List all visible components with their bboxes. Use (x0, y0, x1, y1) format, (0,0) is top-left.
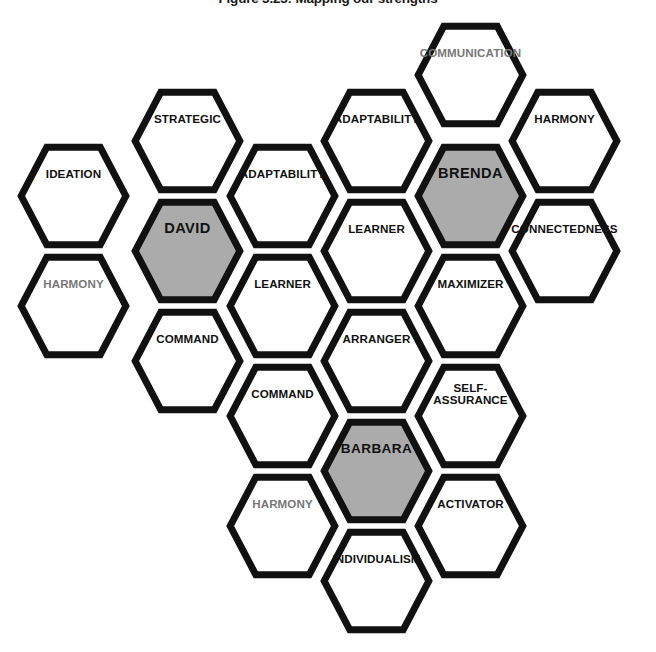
hex-cell-ideation[interactable]: IDEATION (17, 143, 130, 249)
hex-outline (21, 147, 126, 245)
hex-outline (418, 367, 523, 465)
hex-outline (21, 257, 126, 355)
hex-outline (418, 257, 523, 355)
hex-shape-ideation (17, 143, 130, 249)
hex-outline (512, 92, 617, 190)
hex-outline (512, 202, 617, 300)
hex-shape-individualism (320, 528, 433, 634)
hex-shape-harmony-left (17, 253, 130, 359)
hex-outline (135, 202, 240, 300)
strengths-hex-map: COMMUNICATIONSTRATEGICADAPTABILITYHARMON… (0, 0, 656, 652)
hex-outline (135, 92, 240, 190)
hex-outline (418, 477, 523, 575)
hex-outline (135, 312, 240, 410)
hex-cell-individualism[interactable]: INDIVIDUALISM (320, 528, 433, 634)
hex-outline (324, 532, 429, 630)
hex-cell-harmony-left[interactable]: HARMONY (17, 253, 130, 359)
